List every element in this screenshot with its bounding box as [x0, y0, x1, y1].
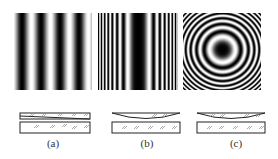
- fringe-pattern-c: [183, 13, 261, 90]
- setup-a-wedge: [20, 113, 90, 133]
- caption-c: (c): [221, 137, 251, 149]
- caption-b: (b): [132, 137, 162, 149]
- bottom-plate-c: [197, 122, 265, 133]
- fringe-pattern-b: [98, 13, 178, 90]
- fringe-pattern-a: [14, 13, 92, 90]
- setup-b-cylinder: [112, 113, 180, 133]
- setup-c-sphere: [197, 113, 265, 133]
- hatch-marks: [30, 113, 264, 129]
- lens-b: [112, 113, 180, 119]
- bottom-plate-b: [112, 122, 180, 133]
- bottom-plate-a: [20, 122, 90, 133]
- caption-a: (a): [38, 137, 68, 149]
- lens-c: [197, 113, 265, 119]
- setup-diagrams: [0, 100, 278, 140]
